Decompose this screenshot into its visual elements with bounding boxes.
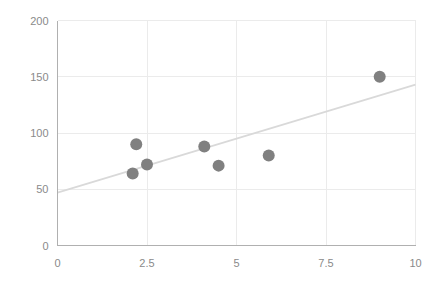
x-tick-label: 7.5 [318,257,333,269]
data-point [127,168,139,180]
data-point [141,159,153,171]
y-tick-label: 100 [30,127,48,139]
data-point [130,138,142,150]
x-tick-label: 10 [409,257,421,269]
data-point [213,160,225,172]
y-tick-label: 200 [30,15,48,27]
datapoints-group [127,71,386,180]
data-point [263,150,275,162]
data-point [198,141,210,153]
plot-area: 050100150200 02.557.510 [0,0,440,288]
scatter-chart: 050100150200 02.557.510 [0,0,440,288]
gridlines-group [58,21,416,246]
y-tick-label: 150 [30,71,48,83]
x-tick-label: 2.5 [139,257,154,269]
y-axis-tick-labels: 050100150200 [30,15,48,252]
y-tick-label: 0 [42,240,48,252]
x-axis-tick-labels: 02.557.510 [54,257,421,269]
x-tick-label: 0 [54,257,60,269]
y-tick-label: 50 [36,183,48,195]
x-tick-label: 5 [233,257,239,269]
data-point [374,71,386,83]
